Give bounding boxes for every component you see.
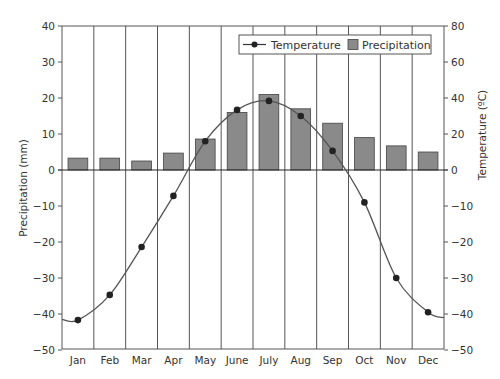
month-label: Sep <box>323 354 343 366</box>
right-tick-label: −30 <box>451 272 473 284</box>
right-tick-label: −40 <box>451 308 473 320</box>
month-label: Jan <box>69 354 86 366</box>
left-tick-label: −40 <box>33 308 55 320</box>
legend-temperature-label: Temperature <box>270 39 341 52</box>
precipitation-bar <box>355 138 375 170</box>
precipitation-bar <box>227 112 247 170</box>
temperature-point <box>361 199 368 206</box>
temperature-point <box>138 244 145 251</box>
temperature-point <box>329 148 336 155</box>
month-labels: JanFebMarAprMayJuneJulyAugSepOctNovDec <box>69 354 439 366</box>
legend-precipitation-label: Precipitation <box>362 39 431 52</box>
left-tick-label: 10 <box>42 128 55 140</box>
legend-precipitation-icon <box>348 40 358 50</box>
month-label: July <box>258 354 278 366</box>
right-tick-label: 40 <box>451 92 464 104</box>
temperature-point <box>234 107 241 114</box>
left-tick-label: 30 <box>42 56 55 68</box>
left-tick-label: −30 <box>33 272 55 284</box>
right-tick-label: 80 <box>451 20 464 32</box>
right-axis-title: Temperature (ºC) <box>476 90 488 181</box>
month-label: June <box>225 354 249 366</box>
temperature-point <box>297 113 304 120</box>
temperature-point <box>106 292 113 299</box>
left-tick-label: −10 <box>33 200 55 212</box>
temperature-point <box>425 309 432 316</box>
left-axis-title: Precipitation (mm) <box>17 139 29 237</box>
temperature-point <box>75 317 82 324</box>
month-label: Dec <box>418 354 439 366</box>
right-tick-label: −20 <box>451 236 473 248</box>
precipitation-bar <box>259 94 279 170</box>
month-label: Oct <box>355 354 373 366</box>
left-tick-label: 0 <box>48 164 55 176</box>
precipitation-bar <box>386 146 406 170</box>
month-label: Mar <box>132 354 152 366</box>
left-tick-label: 20 <box>42 92 55 104</box>
temperature-point <box>266 98 273 105</box>
left-tick-label: 40 <box>42 20 55 32</box>
precipitation-bar <box>68 158 88 170</box>
chart-canvas: JanFebMarAprMayJuneJulyAugSepOctNovDec 4… <box>0 0 500 379</box>
precipitation-bar <box>323 123 343 170</box>
month-label: Feb <box>100 354 119 366</box>
month-label: May <box>194 354 216 366</box>
right-tick-label: −50 <box>451 344 473 356</box>
month-label: Apr <box>164 354 183 366</box>
precipitation-bar <box>164 153 184 170</box>
right-tick-label: 0 <box>451 164 458 176</box>
right-tick-label: 60 <box>451 56 464 68</box>
left-tick-label: −50 <box>33 344 55 356</box>
temperature-point <box>202 138 209 145</box>
right-axis-ticks: 806040200−10−20−30−40−50 <box>444 20 473 356</box>
vertical-gridlines <box>94 26 412 349</box>
left-tick-label: −20 <box>33 236 55 248</box>
legend: Temperature Precipitation <box>239 35 431 54</box>
month-label: Nov <box>386 354 407 366</box>
precipitation-bar <box>132 161 152 170</box>
right-tick-label: 20 <box>451 128 464 140</box>
right-tick-label: −10 <box>451 200 473 212</box>
month-label: Aug <box>290 354 311 366</box>
precipitation-bar <box>100 158 120 170</box>
precipitation-bar <box>418 152 438 170</box>
left-axis-ticks: 403020100−10−20−30−40−50 <box>33 20 62 356</box>
climate-chart: JanFebMarAprMayJuneJulyAugSepOctNovDec 4… <box>0 0 500 379</box>
temperature-point <box>170 193 177 200</box>
temperature-point <box>393 275 400 282</box>
